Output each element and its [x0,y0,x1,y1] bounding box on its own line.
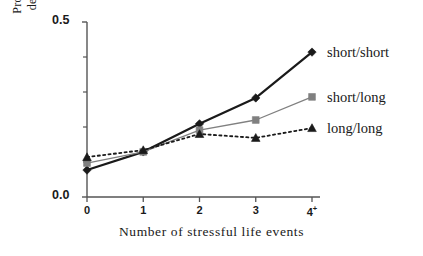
y-axis-title-line2: depression episode [25,0,40,38]
legend-entry-short-short: short/short [327,45,389,60]
data-point-marker [83,166,91,174]
data-point-marker [309,94,316,101]
legend-entry-long-long: long/long [327,121,383,136]
xtick-label-1: 1 [140,205,146,216]
x-axis-title: Number of stressful life events [0,224,423,240]
chart-figure: 0.5 0.0 Probability of major depression … [0,0,423,256]
legend-entry-short-long: short/long [327,90,386,105]
data-point-marker [308,124,317,132]
xtick-label-2: 2 [196,205,202,216]
ytick-label-bottom: 0.0 [52,189,69,202]
y-axis-title-line1: Probability of major [10,0,25,38]
xtick-label-3: 3 [253,205,259,216]
data-point-marker [252,117,259,124]
xtick-label-0: 0 [84,205,90,216]
ytick-label-top: 0.5 [52,14,69,27]
xtick-label-4plus: 4+ [307,205,318,218]
y-axis-title: Probability of major depression episode [10,0,39,38]
